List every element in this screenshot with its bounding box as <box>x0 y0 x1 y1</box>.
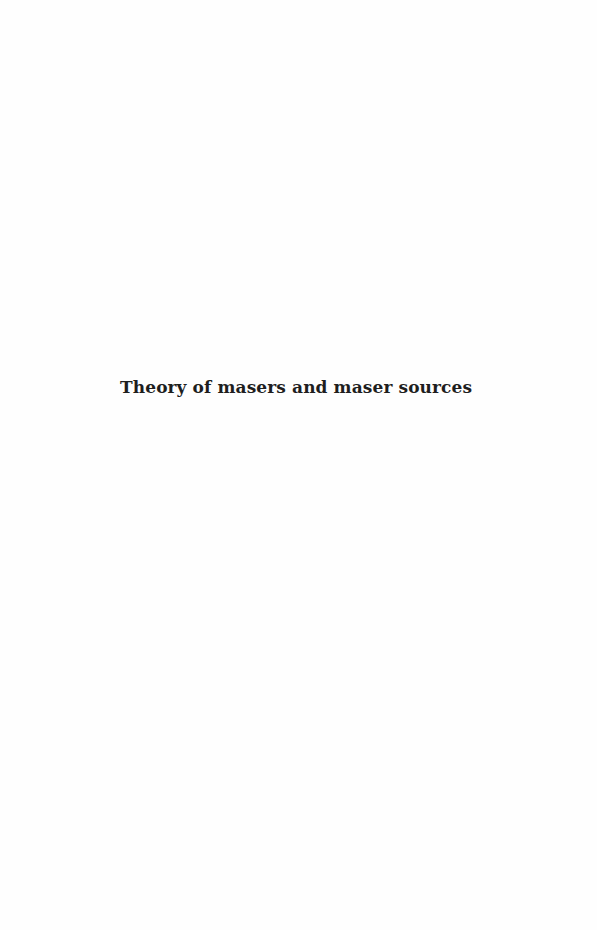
book-half-title-page: Theory of masers and maser sources <box>0 0 597 930</box>
half-title: Theory of masers and maser sources <box>120 375 460 399</box>
